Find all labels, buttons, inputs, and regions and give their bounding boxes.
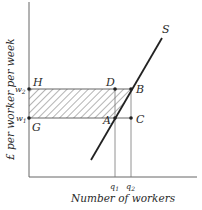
label-a: A — [102, 114, 111, 127]
x-tick-q1: q1 — [110, 182, 119, 192]
label-g: G — [32, 121, 41, 134]
y-axis-title: £ per worker per week — [4, 38, 16, 161]
labour-supply-diagram: H G D B A C S w2 w1 q1 q2 Number of work… — [0, 0, 202, 210]
point-h — [27, 87, 31, 91]
point-a — [113, 116, 117, 120]
point-c — [129, 116, 133, 120]
svg-text:w1: w1 — [16, 114, 27, 124]
x-tick-q2: q2 — [126, 182, 135, 192]
x-axis-title: Number of workers — [70, 192, 176, 204]
shaded-area — [29, 89, 131, 118]
point-g — [27, 116, 31, 120]
label-s: S — [162, 23, 170, 36]
label-c: C — [136, 113, 145, 126]
y-tick-w2: w2 — [15, 85, 26, 95]
label-h: H — [32, 76, 43, 89]
svg-text:w2: w2 — [15, 85, 26, 95]
point-b — [129, 87, 133, 91]
label-b: B — [135, 83, 144, 96]
svg-text:q1: q1 — [110, 182, 119, 192]
label-d: D — [105, 76, 115, 89]
svg-text:q2: q2 — [126, 182, 135, 192]
y-tick-w1: w1 — [16, 114, 27, 124]
